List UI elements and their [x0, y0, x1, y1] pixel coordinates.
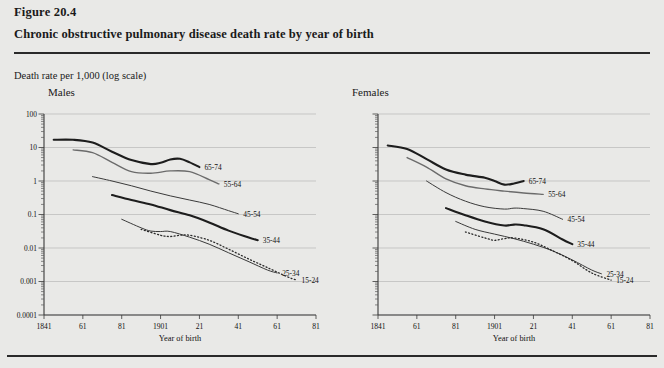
x-tick-label: 61 — [273, 322, 281, 331]
series-label-65-74: 65-74 — [204, 163, 222, 172]
chart-svg-females: 18416181190121416181Year of birth65-7455… — [334, 100, 664, 355]
chart-females: 18416181190121416181Year of birth65-7455… — [334, 100, 664, 355]
series-line-25-34 — [122, 219, 277, 273]
x-tick-label: 21 — [530, 322, 538, 331]
series-label-65-74: 65-74 — [529, 177, 547, 186]
x-axis-title: Year of birth — [493, 334, 536, 343]
series-label-15-24: 15-24 — [302, 276, 320, 285]
series-line-65-74 — [54, 140, 200, 168]
series-line-35-44 — [446, 208, 572, 244]
y-tick-label: 1 — [33, 177, 37, 186]
y-tick-label: 0.001 — [20, 277, 37, 286]
x-tick-label: 41 — [234, 322, 242, 331]
y-tick-label: 100 — [26, 110, 37, 119]
x-tick-label: 81 — [646, 322, 654, 331]
footer-divider — [7, 355, 657, 357]
x-tick-label: 61 — [413, 322, 421, 331]
figure-title: Chronic obstructive pulmonary disease de… — [14, 27, 374, 42]
series-label-45-54: 45-54 — [568, 215, 586, 224]
header-divider — [14, 52, 650, 54]
x-tick-label: 1901 — [153, 322, 168, 331]
x-tick-label: 61 — [79, 322, 87, 331]
panel-title-females: Females — [352, 86, 389, 98]
x-tick-label: 81 — [312, 322, 320, 331]
y-tick-label: 10 — [30, 143, 38, 152]
x-tick-label: 81 — [452, 322, 460, 331]
series-label-25-34: 25-34 — [282, 269, 300, 278]
figure-panel: Figure 20.4 Chronic obstructive pulmonar… — [0, 0, 664, 368]
x-tick-label: 81 — [118, 322, 126, 331]
x-axis-title: Year of birth — [159, 334, 202, 343]
x-tick-label: 1841 — [36, 322, 51, 331]
x-tick-label: 1901 — [487, 322, 502, 331]
series-label-45-54: 45-54 — [243, 210, 261, 219]
series-label-55-64: 55-64 — [548, 190, 566, 199]
x-tick-label: 61 — [607, 322, 615, 331]
figure-number: Figure 20.4 — [14, 5, 76, 20]
y-axis-note: Death rate per 1,000 (log scale) — [14, 70, 146, 81]
y-tick-label: 0.01 — [24, 244, 37, 253]
series-label-55-64: 55-64 — [224, 180, 242, 189]
chart-males: 1001010.10.010.0010.00011841618119012141… — [0, 100, 330, 355]
series-label-35-44: 35-44 — [577, 240, 595, 249]
series-line-65-74 — [388, 145, 524, 184]
series-label-15-24: 15-24 — [616, 276, 634, 285]
x-tick-label: 41 — [568, 322, 576, 331]
series-line-35-44 — [112, 195, 258, 240]
series-line-45-54 — [427, 181, 563, 219]
y-tick-label: 0.1 — [28, 210, 38, 219]
x-tick-label: 1841 — [370, 322, 385, 331]
series-label-35-44: 35-44 — [263, 236, 281, 245]
panel-title-males: Males — [48, 86, 75, 98]
chart-svg-males: 1001010.10.010.0010.00011841618119012141… — [0, 100, 330, 355]
x-tick-label: 21 — [196, 322, 204, 331]
y-tick-label: 0.0001 — [17, 311, 38, 320]
